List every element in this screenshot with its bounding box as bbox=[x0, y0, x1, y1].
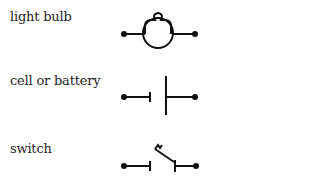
light-bulb-icon bbox=[121, 13, 198, 48]
switch-icon bbox=[121, 145, 199, 172]
cell-battery-icon bbox=[121, 76, 198, 115]
